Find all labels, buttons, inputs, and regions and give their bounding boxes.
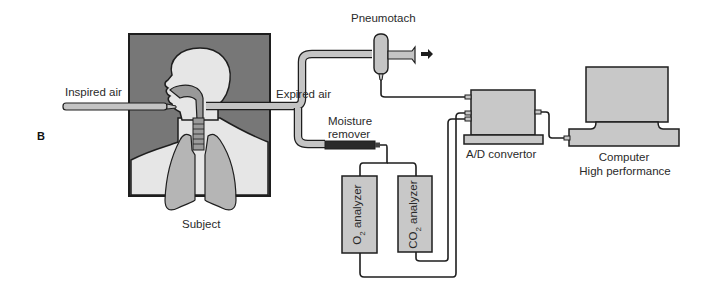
subject-label: Subject: [182, 218, 220, 231]
computer-label-line2: High performance: [570, 165, 680, 178]
ad-convertor: [464, 90, 543, 144]
inspired-air-tube: [63, 103, 176, 110]
panel-letter: B: [37, 130, 45, 142]
computer-label-line1: Computer: [584, 151, 664, 164]
subject-panel: [129, 34, 270, 210]
co2-analyzer-label: CO2 analyzer: [407, 177, 422, 253]
o2-analyzer-label: O2 analyzer: [351, 177, 366, 253]
pneumotach-label: Pneumotach: [351, 12, 416, 25]
exhaust-arrow-icon: [421, 49, 433, 59]
moisture-remover-label-line1: Moisture: [328, 115, 372, 128]
pneumotach: [374, 34, 433, 80]
moisture-remover-label-line2: remover: [328, 128, 370, 141]
computer: [564, 67, 679, 146]
inspired-air-label: Inspired air: [65, 86, 122, 99]
moisture-remover: [325, 141, 380, 149]
trachea: [193, 118, 204, 150]
ad-convertor-label: A/D convertor: [466, 148, 536, 161]
expired-air-label: Expired air: [276, 88, 331, 101]
